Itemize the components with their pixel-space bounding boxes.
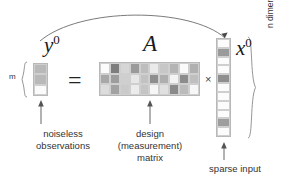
y0-vector-cell [34,64,47,74]
a-matrix-cell [100,63,110,74]
x0-vector-cell [217,74,230,83]
a-matrix-cell [110,84,120,95]
x0-vector-cell [217,48,230,57]
caption-noiseless-observations: noiseless observations [13,128,113,152]
a-matrix-cell [120,84,130,95]
equals-sign: = [68,68,82,92]
y0-base: y [44,33,53,57]
a-matrix-cell [159,63,169,74]
caption-noiseless-line2: observations [13,140,113,152]
a-matrix-cell [189,84,199,95]
x0-vector-cell [217,39,230,48]
a-matrix-cell [179,74,189,85]
pointer-arrowhead-noiseless [38,100,44,106]
a-matrix-cell [120,63,130,74]
x0-vector-cell [217,110,230,119]
a-matrix-cell [169,63,179,74]
caption-sparse-input: sparse input [185,163,285,175]
y0-superscript: 0 [53,32,60,47]
a-matrix-cell [110,63,120,74]
a-matrix-cell [189,63,199,74]
a-matrix-cell [169,84,179,95]
brace-m [22,62,27,97]
caption-design-line1: design [104,128,196,140]
x0-superscript: 0 [245,35,252,50]
x0-vector [216,38,231,137]
a-matrix-cell [179,84,189,95]
pointer-arrowhead-sparse [221,142,227,148]
x0-vector-cell [217,118,230,127]
a-matrix-cell [169,74,179,85]
x0-vector-cell [217,92,230,101]
a-matrix-cell [149,74,159,85]
y0-vector-cell [34,74,47,84]
x0-vector-cell [217,83,230,92]
a-matrix-cell [159,74,169,85]
x0-vector-cell [217,101,230,110]
a-matrix-cell [100,84,110,95]
a-matrix-cell [179,63,189,74]
x0-base: x [236,36,245,60]
y0-vector [33,63,48,96]
caption-design-matrix: design (measurement) matrix [104,128,196,164]
times-sign: × [205,74,211,85]
a-matrix-cell [159,84,169,95]
caption-noiseless-line1: noiseless [13,128,113,140]
a-matrix-cell [130,74,140,85]
x0-vector-cell [217,57,230,66]
a-matrix-cell [140,74,150,85]
a-matrix-cell [130,63,140,74]
figure-canvas: m y0 = A × x0 noiseless observations des… [0,0,294,186]
caption-design-line2: (measurement) [104,140,196,152]
a-matrix-cell [189,74,199,85]
a-matrix-cell [110,74,120,85]
x0-vector-cell [217,127,230,136]
a-matrix-cell [149,63,159,74]
a-matrix-cell [100,74,110,85]
a-matrix-cell [140,84,150,95]
a-matrix-cell [149,84,159,95]
y0-label: y0 [44,33,60,56]
x0-vector-cell [217,65,230,74]
a-matrix-label: A [143,32,157,55]
a-matrix-cell [120,74,130,85]
m-dimension-label: m [9,73,16,81]
x0-label: x0 [236,36,252,59]
y0-vector-cell [34,85,47,95]
caption-design-line3: matrix [104,152,196,164]
caption-dimensions: n dimensions, k nonzeros [265,0,277,28]
a-matrix [99,62,200,96]
pointer-arrowhead-design [147,100,153,106]
a-matrix-cell [130,84,140,95]
a-matrix-cell [140,63,150,74]
feedback-arc [40,15,225,41]
